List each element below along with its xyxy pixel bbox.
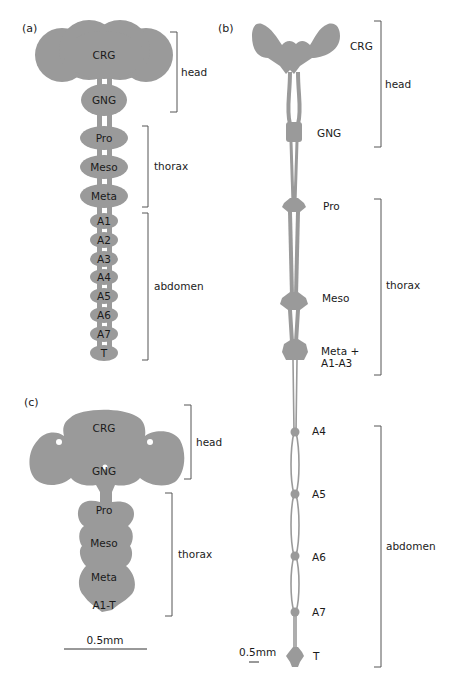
- panel-a-gng-label: GNG: [92, 94, 116, 106]
- panel-a-t-label: T: [100, 347, 108, 359]
- panel-b-abdominal-connective-right: [296, 360, 299, 650]
- panel-b-abdomen-bracket: [374, 426, 381, 667]
- panel-c-gng-label: GNG: [92, 465, 116, 477]
- panel-b-a5-label: A5: [312, 488, 326, 500]
- panel-c-pro-label: Pro: [96, 504, 113, 516]
- panel-c-thorax-label: thorax: [178, 548, 212, 560]
- panel-b-meso-ganglion: [280, 292, 308, 310]
- panel-b-crg-ganglion: [252, 24, 340, 74]
- panel-b-meso-connective-right: [296, 310, 298, 342]
- panel-b-a7-label: A7: [312, 606, 326, 618]
- panel-a-a1-label: A1: [97, 215, 111, 227]
- panel-b-a7-ganglion: [291, 608, 300, 617]
- panel-b-abdomen-label: abdomen: [386, 540, 436, 552]
- panel-b-head-connective-left: [288, 72, 290, 124]
- panel-a-abdomen-bracket: [142, 213, 148, 360]
- panel-a-pro-label: Pro: [96, 132, 113, 144]
- panel-b-scale-label: 0.5mm: [239, 646, 276, 658]
- panel-c-scale-label: 0.5mm: [86, 634, 123, 646]
- panel-a-head-bracket: [170, 32, 177, 112]
- panel-b-meso-connective-left: [290, 310, 292, 342]
- panel-b-thorax-connective-left: [290, 212, 292, 296]
- panel-b-a6-label: A6: [312, 551, 326, 563]
- panel-b-t-label: T: [312, 650, 320, 662]
- panel-b-pro-label: Pro: [323, 200, 340, 212]
- panel-a-label: (a): [22, 22, 37, 35]
- panel-b-thorax-bracket: [374, 199, 381, 375]
- panel-a-a7-label: A7: [97, 328, 111, 340]
- panel-b-gng-ganglion: [286, 122, 302, 142]
- panel-b-neck-connective-right: [295, 142, 297, 203]
- panel-a-a5-label: A5: [97, 290, 111, 302]
- panel-c-meta-label: Meta: [91, 571, 117, 583]
- panel-a-a6-label: A6: [97, 309, 111, 321]
- panel-b-crg-label: CRG: [350, 40, 373, 52]
- panel-b-meso-label: Meso: [322, 292, 349, 304]
- panel-b-label: (b): [218, 22, 234, 35]
- panel-c-notch-left: [56, 439, 62, 445]
- panel-c-head-label: head: [196, 436, 222, 448]
- panel-a-a3-label: A3: [97, 253, 111, 265]
- panel-b-head-label: head: [385, 78, 411, 90]
- panel-c-thorax-bracket: [165, 493, 172, 616]
- panel-a: (a) CRG GNG Pro Meso Met: [22, 20, 207, 361]
- panel-a-thorax-label: thorax: [154, 160, 188, 172]
- panel-a-abdomen-label: abdomen: [154, 280, 204, 292]
- panel-b-a5-ganglion: [291, 490, 300, 499]
- panel-b-meta-ganglion: [282, 339, 308, 360]
- panel-c-a1t-label: A1-T: [92, 599, 116, 611]
- panel-a-thorax-bracket: [142, 126, 148, 207]
- panel-a-head-label: head: [181, 66, 207, 78]
- panel-b-head-bracket: [374, 21, 381, 147]
- panel-b-thorax-label: thorax: [386, 279, 420, 291]
- panel-a-meta-label: Meta: [91, 190, 117, 202]
- panel-b-pro-ganglion: [282, 198, 306, 212]
- panel-b-a6-ganglion: [291, 552, 300, 561]
- panel-b-meta-label-line1: Meta +: [321, 345, 359, 357]
- panel-b-neck-connective-left: [291, 142, 293, 203]
- panel-c: (c) CRG GNG Pro Meso Meta A1-T head thor…: [24, 396, 222, 649]
- panel-a-a4-label: A4: [97, 271, 111, 283]
- panel-b-gng-label: GNG: [317, 127, 341, 139]
- figure-canvas: (a) CRG GNG Pro Meso Met: [0, 0, 453, 682]
- panel-a-meso-label: Meso: [90, 161, 117, 173]
- panel-b: (b) CRG GNG Pro Meso: [218, 21, 436, 667]
- panel-b-t-ganglion: [286, 647, 304, 667]
- panel-b-meta-label-line2: A1-A3: [321, 357, 352, 369]
- panel-a-crg-label: CRG: [93, 49, 116, 61]
- panel-c-notch-right: [147, 439, 153, 445]
- panel-b-head-connective-right: [298, 72, 300, 124]
- panel-b-a4-ganglion: [291, 428, 300, 437]
- panel-a-a2-label: A2: [97, 234, 111, 246]
- panel-c-crg-label: CRG: [93, 422, 116, 434]
- panel-b-thorax-connective-right: [296, 212, 298, 296]
- panel-b-abdominal-connective-left: [291, 360, 294, 650]
- panel-c-label: (c): [24, 396, 39, 409]
- panel-b-a4-label: A4: [312, 425, 326, 437]
- panel-c-meso-label: Meso: [90, 537, 117, 549]
- panel-c-head-bracket: [184, 405, 191, 479]
